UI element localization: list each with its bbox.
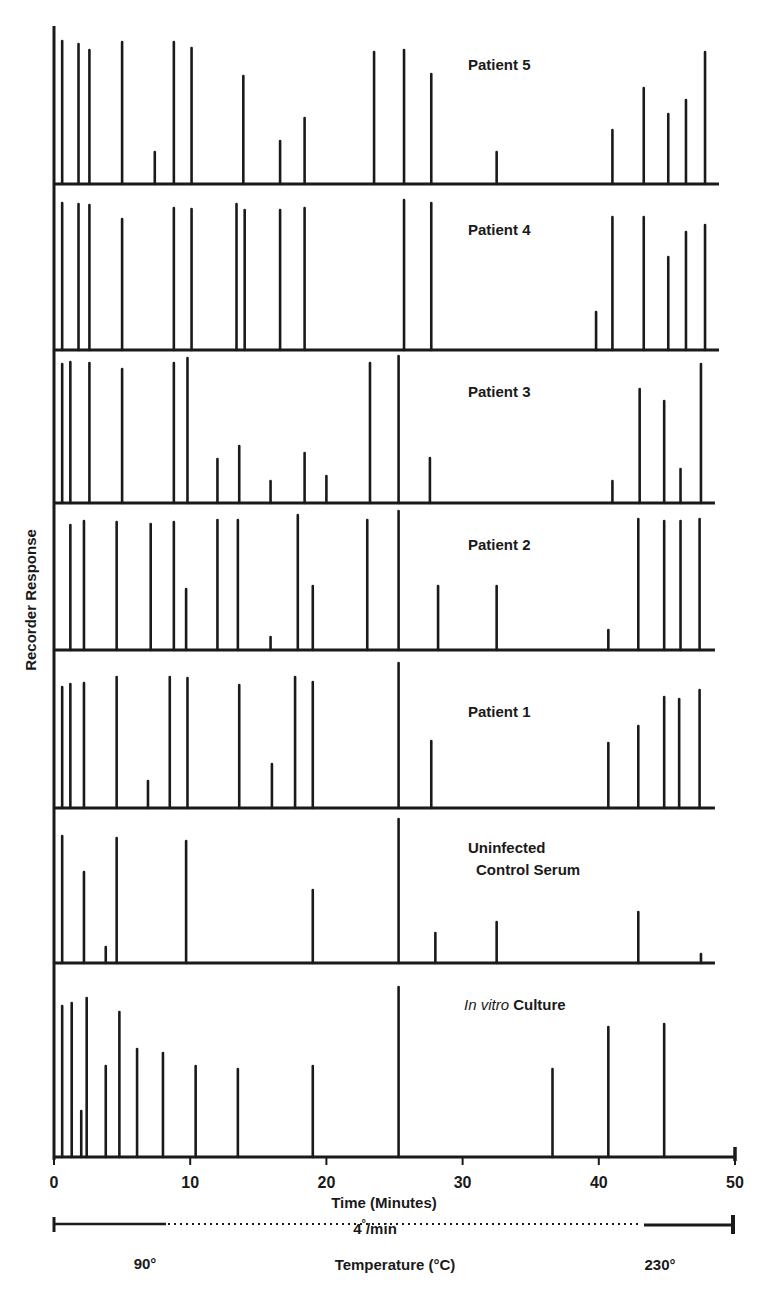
panel-patient-2: Patient 2: [54, 511, 715, 650]
x-axis-ticks: 01020304050: [50, 1147, 744, 1191]
panel-uninfected-control-serum: UninfectedControl Serum: [54, 819, 715, 963]
panel-label: Patient 1: [468, 703, 531, 720]
panel-label: Patient 3: [468, 383, 531, 400]
panel-label: In vitro Culture: [464, 996, 566, 1013]
panel-label: Uninfected: [468, 839, 546, 856]
x-tick-label: 20: [318, 1174, 336, 1191]
rate-label: 4°/min: [353, 1217, 397, 1237]
panels-group: Patient 5Patient 4Patient 3Patient 2Pati…: [54, 41, 735, 1157]
temp-end-label: 230°: [644, 1256, 675, 1273]
panel-patient-5: Patient 5: [54, 41, 719, 184]
panel-in-vitro-culture: In vitro Culture: [54, 987, 735, 1157]
x-tick-label: 40: [590, 1174, 608, 1191]
panel-label: Patient 2: [468, 536, 531, 553]
temp-start-label: 90°: [134, 1255, 157, 1272]
chromatogram-figure: Recorder Response Patient 5Patient 4Pati…: [0, 0, 761, 1293]
panel-patient-4: Patient 4: [54, 200, 719, 350]
panel-label: Patient 5: [468, 56, 531, 73]
x-tick-label: 0: [50, 1174, 59, 1191]
panel-patient-1: Patient 1: [54, 663, 715, 808]
x-tick-label: 10: [181, 1174, 199, 1191]
x-tick-label: 50: [726, 1174, 744, 1191]
x-tick-label: 30: [454, 1174, 472, 1191]
x-axis-title: Time (Minutes): [331, 1194, 437, 1211]
panel-label: Patient 4: [468, 221, 531, 238]
temperature-axis-title: Temperature (°C): [335, 1256, 456, 1273]
panel-patient-3: Patient 3: [54, 356, 715, 503]
panel-label: Control Serum: [476, 861, 580, 878]
y-axis-title: Recorder Response: [22, 529, 39, 671]
